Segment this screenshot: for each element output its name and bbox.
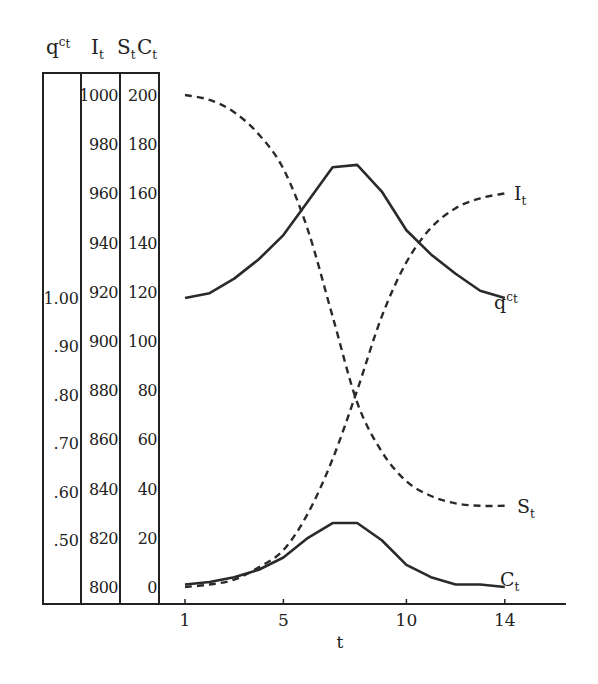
I-tick-label: 860: [89, 430, 118, 449]
S-tick-label: 40: [138, 480, 158, 499]
I-tick-label: 800: [89, 578, 118, 597]
S-tick-label: 0: [147, 578, 157, 597]
I-tick-label: 1000: [79, 86, 118, 105]
label-q: qct: [494, 290, 518, 313]
series-it-line: [185, 193, 505, 587]
header-S: St: [117, 35, 136, 62]
header-I: It: [91, 35, 104, 62]
q-tick-label: .80: [54, 386, 79, 405]
q-tick-label: 1.00: [43, 289, 79, 308]
I-tick-label: 840: [89, 480, 118, 499]
S-tick-label: 140: [128, 234, 157, 253]
S-tick-label: 60: [138, 430, 158, 449]
header-C: Ct: [137, 35, 157, 62]
series-qct-line: [185, 165, 505, 298]
x-axis-label: t: [337, 632, 344, 652]
q-tick-label: .60: [54, 483, 79, 502]
q-tick-label: .90: [54, 337, 79, 356]
S-tick-label: 200: [128, 86, 157, 105]
series-lines: [185, 95, 505, 587]
I-tick-label: 880: [89, 381, 118, 400]
S-tick-label: 100: [128, 332, 157, 351]
S-tick-label: 80: [138, 381, 158, 400]
series-labels: It qct St Ct: [494, 182, 535, 594]
I-tick-label: 940: [89, 234, 118, 253]
S-tick-label: 160: [128, 184, 157, 203]
S-tick-label: 20: [138, 529, 158, 548]
S-tick-label: 180: [128, 135, 157, 154]
x-tick-label: 5: [278, 610, 289, 630]
label-C: Ct: [500, 568, 520, 594]
I-tick-label: 960: [89, 184, 118, 203]
q-tick-label: .50: [54, 531, 79, 550]
series-st-line: [185, 95, 505, 506]
y-axis-tick-labels: 1.00.90.80.70.60.50100098096094092090088…: [43, 86, 157, 597]
I-tick-label: 900: [89, 332, 118, 351]
I-tick-label: 980: [89, 135, 118, 154]
series-ct-line: [185, 523, 505, 587]
S-tick-label: 120: [128, 283, 157, 302]
label-I: It: [514, 182, 527, 208]
x-tick-label: 10: [396, 610, 418, 630]
header-q: qct: [46, 35, 71, 59]
I-tick-label: 820: [89, 529, 118, 548]
axis-headers: qct It St Ct: [46, 35, 157, 62]
q-tick-label: .70: [54, 434, 79, 453]
chart: 151014 t qct It St Ct 1.00.90.80.70.60.5…: [0, 0, 598, 684]
label-S: St: [517, 495, 535, 521]
x-tick-label: 1: [180, 610, 191, 630]
I-tick-label: 920: [89, 283, 118, 302]
x-tick-label: 14: [494, 610, 516, 630]
